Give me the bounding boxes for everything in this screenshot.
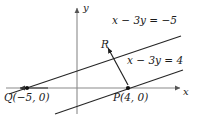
- point-label-q: Q(−5, 0): [4, 92, 50, 103]
- line-upper-equation-label: x − 3y = −5: [112, 15, 177, 26]
- coordinate-plane-figure: x − 3y = −5 x − 3y = 4 R Q(−5, 0) P(4, 0…: [0, 0, 197, 121]
- region-arrow-group: [108, 48, 128, 85]
- point-marker-q: [25, 86, 29, 90]
- point-marker-p: [126, 86, 130, 90]
- line-lower-equation-label: x − 3y = 4: [127, 55, 183, 66]
- region-label-r: R: [101, 39, 109, 50]
- point-label-p: P(4, 0): [113, 92, 148, 103]
- y-axis-label: y: [83, 3, 89, 13]
- region-arrow-r: [108, 48, 128, 85]
- x-axis-label: x: [183, 87, 189, 97]
